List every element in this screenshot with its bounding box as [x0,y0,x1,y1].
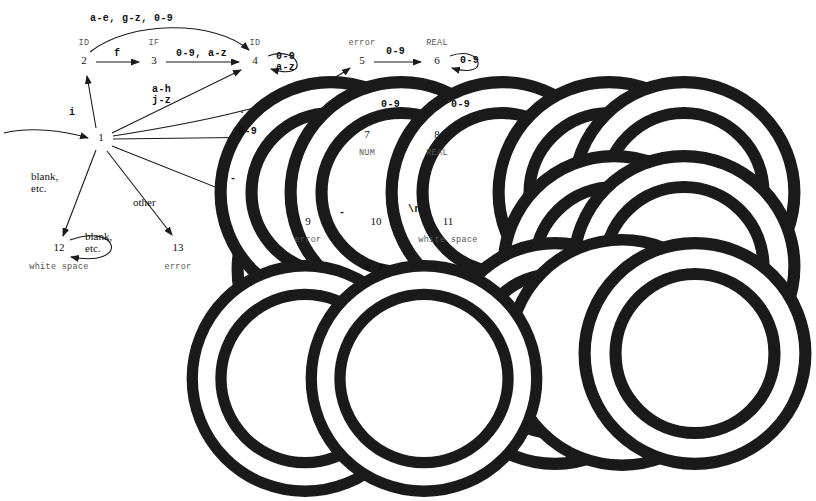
label-3-to-4: 0-9, a-z [176,49,227,60]
state-caption-12: white space [29,263,88,272]
label-9-to-10: - [339,208,345,219]
state-node-5[interactable]: 5 [349,49,375,75]
state-number-6: 6 [424,55,450,67]
state-node-9[interactable]: 9 [295,210,321,236]
state-node-12[interactable]: 12 [45,235,73,263]
state-node-8[interactable]: 8 [424,123,450,149]
label-1-to-2: i [69,108,75,119]
state-node-13[interactable]: 13 [164,235,192,263]
label-8-selfloop: 0-9 [451,100,470,111]
state-caption-4: ID [250,39,261,48]
state-number-13: 13 [164,242,192,254]
state-node-7[interactable]: 7 [354,123,380,149]
state-number-11: 11 [435,216,461,228]
state-caption-6: REAL [426,39,448,48]
state-node-3[interactable]: 3 [141,49,167,75]
label-2-to-4-top: a-e, g-z, 0-9 [90,14,173,25]
state-node-11[interactable]: 11 [435,210,461,236]
state-number-5: 5 [349,55,375,67]
state-node-4[interactable]: 4 [242,49,268,75]
label-1-to-12: blank, etc. [31,171,58,194]
label-2-to-3: f [114,49,120,60]
state-caption-8: REAL [426,149,448,158]
label-10-to-11: \n [408,205,421,216]
state-number-8: 8 [424,129,450,141]
label-10-selfloop: a-z [365,263,384,274]
state-number-7: 7 [354,129,380,141]
state-number-10: 10 [362,216,390,228]
label-6-selfloop: 0-9 [460,56,479,67]
label-1-to-5: . [239,106,245,117]
state-caption-2: ID [79,39,90,48]
state-number-4: 4 [242,55,268,67]
label-4-selfloop: 0-9 a-z [276,52,295,73]
label-7-selfloop: 0-9 [381,100,400,111]
state-number-12: 12 [45,242,73,254]
label-1-to-9: - [230,174,236,185]
state-node-10[interactable]: 10 [362,209,390,237]
state-caption-5: error [348,39,375,48]
state-number-2: 2 [71,55,97,67]
label-1-to-13: other [133,197,156,209]
state-node-2[interactable]: 2 [71,49,97,75]
state-node-6[interactable]: 6 [424,49,450,75]
label-12-selfloop: blank, etc. [85,231,112,254]
label-1-to-7: 0-9 [238,127,257,138]
label-7-to-8: . [400,128,406,139]
state-caption-7: NUM [359,149,375,158]
label-1-to-4: a-h j-z [152,85,171,106]
state-number-9: 9 [295,216,321,228]
state-number-3: 3 [141,55,167,67]
label-5-to-6: 0-9 [386,47,405,58]
state-caption-13: error [164,263,191,272]
state-caption-3: IF [149,39,160,48]
